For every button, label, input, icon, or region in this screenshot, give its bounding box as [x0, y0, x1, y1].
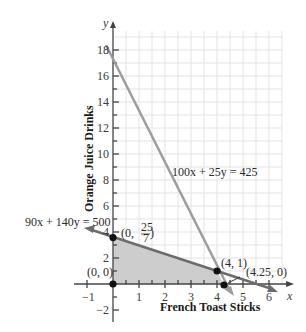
- point-label-origin: (0, 0): [87, 265, 113, 279]
- vertex-x-intercept: [220, 281, 227, 288]
- svg-text:(0,: (0,: [121, 226, 134, 240]
- vertex-corner: [213, 267, 220, 274]
- x-axis-symbol: x: [286, 289, 293, 303]
- vertex-origin: [109, 280, 116, 287]
- x-tick-label: −1: [82, 290, 95, 304]
- svg-text:): ): [150, 226, 154, 240]
- y-axis-title: Orange Juice Drinks: [82, 105, 96, 212]
- y-tick-label: 8: [103, 173, 109, 187]
- vertex-y-intercept: [109, 234, 116, 241]
- y-tick-label: 18: [97, 43, 109, 57]
- x-axis-title: French Toast Sticks: [160, 300, 261, 314]
- y-tick-label: −2: [96, 303, 109, 317]
- point-label-x-intercept: (4.25, 0): [246, 265, 287, 279]
- equation-label-line1: 100x + 25y = 425: [172, 165, 258, 179]
- y-axis-symbol: y: [102, 16, 109, 30]
- fraction-denominator: 7: [143, 231, 149, 245]
- y-tick-label: 10: [97, 147, 109, 161]
- equation-label-line2: 90x + 140y = 500: [25, 215, 111, 229]
- y-tick-label: 12: [97, 121, 109, 135]
- point-label-corner: (4, 1): [221, 256, 247, 270]
- x-axis-arrow-icon: [286, 281, 294, 287]
- y-tick-label: 16: [97, 69, 109, 83]
- x-tick-label: 6: [266, 290, 272, 304]
- y-tick-label: 6: [103, 199, 109, 213]
- y-axis-arrow-icon: [110, 21, 116, 28]
- y-tick-label: 14: [97, 95, 109, 109]
- y-tick-label: 2: [103, 251, 109, 265]
- x-tick-label: 1: [136, 290, 142, 304]
- graph: −1 1 2 3 4 5 6 −2 2 4 6 8 10 12 14 16 18…: [0, 0, 306, 332]
